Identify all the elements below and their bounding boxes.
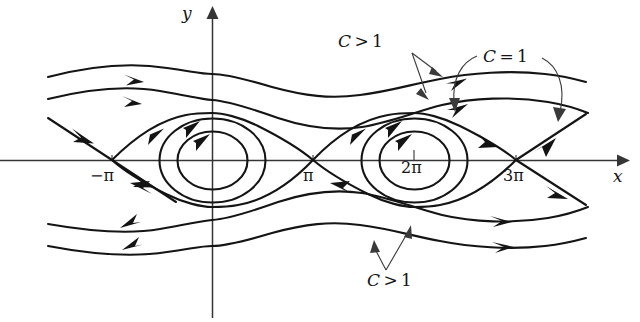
flow-arrow-upper-outer-right xyxy=(446,79,467,92)
annotation-c-greater-bottom-symbol: C xyxy=(367,270,380,290)
leader-head-c-greater-bottom-b xyxy=(404,225,412,239)
leader-head-c-greater-bottom-a xyxy=(370,240,380,253)
lower-rotating-orbit-outer-group xyxy=(48,223,586,255)
upper-rotating-orbit-inner-group xyxy=(48,88,588,129)
flow-arrow-twopi-inner xyxy=(395,134,412,151)
annotation-c-equals-one: C = 1 xyxy=(483,48,528,65)
flow-arrow-zero-inner xyxy=(193,134,210,151)
tick-label-pi: π xyxy=(303,168,314,184)
annotation-c-greater-bottom-rel: > xyxy=(383,270,397,290)
annotation-c-greater-bottom-value: 1 xyxy=(401,270,412,290)
orbit-lower-outer xyxy=(48,223,586,255)
flow-arrow-upper-outer-left xyxy=(124,75,144,86)
annotation-c-greater-top-rel: > xyxy=(354,31,368,51)
annotation-leaders-lower xyxy=(370,225,412,270)
flow-arrow-upper-inner-right xyxy=(447,104,468,118)
annotation-c-greater-bottom: C > 1 xyxy=(367,272,412,289)
horizontal-axis-arrowhead xyxy=(617,155,630,167)
x-axis-label: x xyxy=(613,168,623,185)
lower-rotating-orbits xyxy=(48,191,588,232)
annotation-c-greater-top-value: 1 xyxy=(372,31,383,51)
annotation-c-greater-top-symbol: C xyxy=(338,31,351,51)
phase-portrait-figure: y x −π π 2π 3π C > 1 C = 1 C > 1 xyxy=(0,0,640,322)
leader-head-c-greater-top-a xyxy=(429,67,443,77)
leader-c-greater-top-b xyxy=(412,53,426,93)
flow-arrow-lower-outer-left xyxy=(122,237,143,250)
phase-portrait-canvas xyxy=(0,0,640,322)
separatrix-incoming-right-lower xyxy=(516,160,586,205)
orbit-upper-inner xyxy=(48,88,588,129)
vertical-axis-arrowhead xyxy=(207,6,219,19)
annotation-c-greater-top: C > 1 xyxy=(338,33,383,50)
annotation-c-equals-one-value: 1 xyxy=(517,46,528,66)
flow-arrow-upper-inner-left xyxy=(122,96,142,107)
flow-arrow-separatrix-arch-twopi-down xyxy=(478,134,498,148)
y-axis-label: y xyxy=(182,5,192,22)
annotation-c-equals-one-rel: = xyxy=(499,46,513,66)
tick-label-neg-pi: −π xyxy=(90,168,114,184)
tick-label-3pi: 3π xyxy=(503,168,524,184)
upper-rotating-orbits xyxy=(48,65,586,97)
orbit-upper-outer xyxy=(48,65,586,97)
leader-head-c-equals-right xyxy=(553,107,566,122)
leader-head-c-greater-top-b xyxy=(416,88,429,100)
separatrix-outgoing-right xyxy=(516,114,586,160)
flow-arrow-separatrix-arch-zero xyxy=(142,129,164,146)
leader-c-greater-bottom-b xyxy=(386,232,408,270)
orbit-lower-inner xyxy=(48,191,588,232)
annotation-c-equals-one-symbol: C xyxy=(483,46,496,66)
tick-label-2pi: 2π xyxy=(401,160,422,176)
annotation-leaders-upper xyxy=(412,53,443,100)
flow-arrow-lower-inner-left xyxy=(120,214,141,228)
